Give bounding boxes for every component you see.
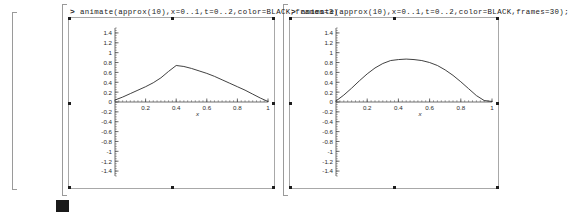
svg-text:-1: -1 <box>327 148 333 155</box>
svg-text:-1.4: -1.4 <box>322 167 333 174</box>
plot-panel-left[interactable]: 1.41.210.80.60.40.20-0.2-0.4-0.6-0.8-1-1… <box>68 17 275 189</box>
svg-text:0.6: 0.6 <box>103 69 112 76</box>
selection-handle-top-right[interactable] <box>496 17 499 20</box>
selection-handle-left-middle[interactable] <box>289 102 292 105</box>
svg-text:1.2: 1.2 <box>103 39 112 46</box>
svg-text:0.4: 0.4 <box>172 104 181 111</box>
svg-text:0.2: 0.2 <box>141 104 150 111</box>
svg-text:1.2: 1.2 <box>324 39 333 46</box>
svg-text:x: x <box>417 110 422 117</box>
svg-text:0: 0 <box>109 98 113 105</box>
animation-plot-left: 1.41.210.80.60.40.20-0.2-0.4-0.6-0.8-1-1… <box>69 18 274 188</box>
svg-text:-1.2: -1.2 <box>322 158 333 165</box>
selection-handle-right-middle[interactable] <box>272 102 275 105</box>
selection-handle-top-middle[interactable] <box>171 17 174 20</box>
svg-text:0.2: 0.2 <box>324 89 333 96</box>
svg-text:0.8: 0.8 <box>324 59 333 66</box>
selection-handle-bottom-left[interactable] <box>289 186 292 189</box>
selection-handle-bottom-middle[interactable] <box>393 186 396 189</box>
svg-text:0.6: 0.6 <box>324 69 333 76</box>
svg-text:-0.6: -0.6 <box>322 128 333 135</box>
maple-prompt-left: > <box>70 7 75 16</box>
svg-text:0.8: 0.8 <box>103 59 112 66</box>
svg-text:0.4: 0.4 <box>394 104 403 111</box>
svg-text:0.8: 0.8 <box>233 104 242 111</box>
svg-text:0.8: 0.8 <box>456 104 465 111</box>
svg-text:0.6: 0.6 <box>425 104 434 111</box>
command-line-right[interactable]: > animate(approx(10),x=0..1,t=0..2,color… <box>291 7 569 17</box>
command-text-right: animate(approx(10),x=0..1,t=0..2,color=B… <box>301 8 569 16</box>
svg-text:1.4: 1.4 <box>324 29 333 36</box>
svg-text:-1.2: -1.2 <box>101 158 112 165</box>
svg-text:-0.2: -0.2 <box>322 108 333 115</box>
selection-handle-bottom-left[interactable] <box>68 186 71 189</box>
selection-handle-top-left[interactable] <box>68 17 71 20</box>
animation-plot-right: 1.41.210.80.60.40.20-0.2-0.4-0.6-0.8-1-1… <box>290 18 498 188</box>
svg-text:-0.4: -0.4 <box>101 118 112 125</box>
svg-text:1: 1 <box>490 104 494 111</box>
selection-handle-bottom-middle[interactable] <box>171 186 174 189</box>
execution-group-bracket-right[interactable] <box>283 4 288 196</box>
svg-text:-0.6: -0.6 <box>101 128 112 135</box>
svg-text:0.2: 0.2 <box>363 104 372 111</box>
svg-text:0.6: 0.6 <box>202 104 211 111</box>
execution-group-bracket-left[interactable] <box>62 4 67 196</box>
plot-panel-right[interactable]: 1.41.210.80.60.40.20-0.2-0.4-0.6-0.8-1-1… <box>289 17 499 189</box>
selection-handle-top-right[interactable] <box>272 17 275 20</box>
execution-group-bracket-outer[interactable] <box>12 12 17 190</box>
text-cursor-block[interactable] <box>56 200 69 212</box>
svg-text:-1: -1 <box>106 148 112 155</box>
maple-prompt-right: > <box>291 7 296 16</box>
svg-text:-1.4: -1.4 <box>101 167 112 174</box>
svg-text:-0.2: -0.2 <box>101 108 112 115</box>
svg-text:x: x <box>195 110 200 117</box>
selection-handle-left-middle[interactable] <box>68 102 71 105</box>
svg-text:0: 0 <box>330 98 334 105</box>
svg-text:1.4: 1.4 <box>103 29 112 36</box>
selection-handle-right-middle[interactable] <box>496 102 499 105</box>
selection-handle-bottom-right[interactable] <box>272 186 275 189</box>
svg-text:0.2: 0.2 <box>103 89 112 96</box>
selection-handle-top-left[interactable] <box>289 17 292 20</box>
selection-handle-top-middle[interactable] <box>393 17 396 20</box>
svg-text:-0.8: -0.8 <box>322 138 333 145</box>
svg-text:-0.8: -0.8 <box>101 138 112 145</box>
svg-text:1: 1 <box>266 104 270 111</box>
svg-text:1: 1 <box>109 49 113 56</box>
selection-handle-bottom-right[interactable] <box>496 186 499 189</box>
svg-text:0.4: 0.4 <box>103 79 112 86</box>
svg-text:0.4: 0.4 <box>324 79 333 86</box>
svg-text:-0.4: -0.4 <box>322 118 333 125</box>
svg-text:1: 1 <box>330 49 334 56</box>
